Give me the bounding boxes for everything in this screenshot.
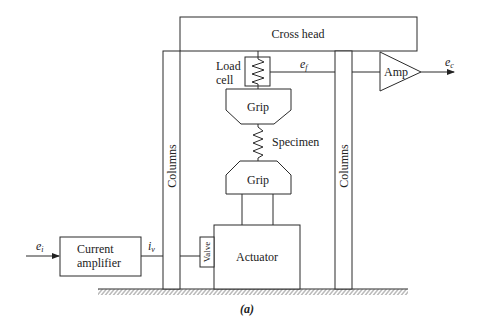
- amp-label: Amp: [384, 65, 408, 79]
- specimen: Specimen: [253, 124, 319, 161]
- cross-head-label: Cross head: [272, 27, 325, 41]
- load-cell-label-2: cell: [216, 73, 234, 87]
- current-amplifier: Current amplifier: [60, 237, 141, 276]
- valve-label: Valve: [202, 242, 212, 263]
- current-amp-label-2: amplifier: [77, 256, 121, 270]
- amp: Amp ec: [380, 52, 454, 91]
- specimen-label: Specimen: [272, 135, 319, 149]
- left-column: Columns: [163, 51, 180, 289]
- cross-head: Cross head: [180, 17, 417, 51]
- ground: [98, 289, 408, 295]
- load-cell: Load cell: [216, 51, 270, 89]
- specimen-spring-icon: [253, 124, 263, 161]
- actuator: Actuator: [214, 225, 300, 289]
- figure-caption: (a): [240, 302, 254, 316]
- top-grip-label: Grip: [247, 100, 269, 114]
- tensile-machine-diagram: Cross head Columns Columns Load cell ef …: [0, 0, 480, 324]
- piston-rod: [242, 194, 273, 225]
- valve: Valve: [200, 237, 214, 267]
- load-signal-label: ef: [300, 57, 309, 72]
- load-cell-label-1: Load: [216, 59, 241, 73]
- actuator-label: Actuator: [236, 250, 278, 264]
- output-signal-label: ec: [445, 55, 454, 70]
- current-amp-label-1: Current: [77, 242, 114, 256]
- top-grip: Grip: [226, 89, 291, 124]
- left-column-label: Columns: [165, 144, 179, 188]
- bottom-grip-label: Grip: [247, 173, 269, 187]
- bottom-grip: Grip: [226, 161, 291, 194]
- right-column-label: Columns: [337, 144, 351, 188]
- valve-current-label: iv: [148, 239, 155, 254]
- input-signal-label: ei: [36, 239, 44, 254]
- right-column: Columns: [335, 51, 352, 289]
